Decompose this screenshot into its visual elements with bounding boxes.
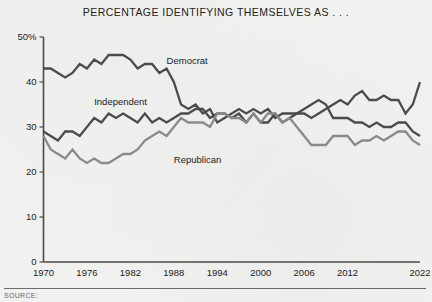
series-label-democrat: Democrat (167, 55, 209, 66)
x-tick-label: 1970 (33, 267, 54, 278)
line-chart-plot: 50%403020100 197019761982198819942000200… (0, 0, 432, 302)
x-tick-label: 1982 (120, 267, 141, 278)
series-lines (44, 55, 421, 163)
series-label-republican: Republican (174, 154, 222, 165)
x-tick-label: 1994 (207, 267, 228, 278)
x-tick-label: 2000 (250, 267, 271, 278)
x-tick-label: 1988 (163, 267, 184, 278)
x-tick-label: 2012 (337, 267, 358, 278)
series-line-independent (44, 82, 421, 141)
footer-divider (4, 288, 426, 289)
y-tick-label: 0 (31, 256, 36, 267)
y-tick-label: 40 (26, 76, 37, 87)
x-tick-label: 2022 (409, 267, 430, 278)
y-tick-label: 50% (17, 31, 37, 42)
series-label-independent: Independent (94, 96, 147, 107)
source-note: SOURCE: (4, 292, 38, 301)
y-tick-label: 30 (26, 121, 37, 132)
y-tick-label: 20 (26, 166, 37, 177)
x-axis: 197019761982198819942000200620122022 (33, 262, 431, 278)
x-tick-label: 2006 (294, 267, 315, 278)
y-tick-label: 10 (26, 211, 37, 222)
y-axis: 50%403020100 (17, 31, 43, 267)
x-tick-label: 1976 (76, 267, 97, 278)
chart-figure: PERCENTAGE IDENTIFYING THEMSELVES AS . .… (0, 0, 432, 302)
